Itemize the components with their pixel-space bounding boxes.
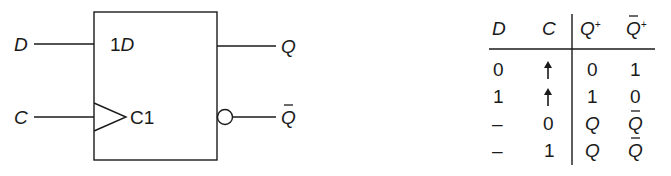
cell-qbar-next: 1 xyxy=(630,59,641,80)
table-row: – 1 Q Q xyxy=(492,138,643,161)
cell-qbar-next: Q xyxy=(628,113,643,134)
header-qbar-next: Q+ xyxy=(626,18,647,39)
cell-q-next: Q xyxy=(585,113,600,134)
negation-circle-icon xyxy=(218,110,233,125)
d-pin-main: D xyxy=(121,34,135,55)
header-q-next-main: Q xyxy=(580,18,595,39)
table-row: 0 0 1 xyxy=(493,59,641,80)
d-pin-label: 1D xyxy=(110,34,135,55)
cell-d: 0 xyxy=(493,59,504,80)
header-d: D xyxy=(492,18,506,39)
cell-q-next: Q xyxy=(585,140,600,161)
diagram-canvas: D C 1D C1 Q Q D C Q+ Q+ 0 0 1 xyxy=(0,0,671,176)
cell-d: – xyxy=(492,140,503,161)
flip-flop-symbol xyxy=(34,12,276,160)
rising-edge-arrow-icon xyxy=(544,61,552,79)
d-input-label: D xyxy=(14,34,28,55)
header-c: C xyxy=(542,18,556,39)
cell-q-next: 1 xyxy=(587,86,598,107)
table-row: 1 1 0 xyxy=(493,86,641,107)
cell-c: 1 xyxy=(544,140,555,161)
q-output-label: Q xyxy=(281,36,296,57)
cell-q-next: 0 xyxy=(587,59,598,80)
table-row: – 0 Q Q xyxy=(492,111,643,134)
rising-edge-arrow-icon xyxy=(544,88,552,106)
qbar-output-label: Q xyxy=(281,107,296,128)
header-q-next: Q+ xyxy=(580,18,601,39)
cell-qbar-next: 0 xyxy=(630,86,641,107)
cell-d: 1 xyxy=(493,86,504,107)
clock-triangle-icon xyxy=(94,103,126,131)
c1-pin-label: C1 xyxy=(130,107,154,128)
cell-d: – xyxy=(492,113,503,134)
header-qbar-next-sup: + xyxy=(641,19,647,30)
cell-qbar-next: Q xyxy=(628,140,643,161)
c-input-label: C xyxy=(14,107,28,128)
cell-c: 0 xyxy=(543,113,554,134)
header-q-next-sup: + xyxy=(595,19,601,30)
truth-table: D C Q+ Q+ 0 0 1 1 1 0 xyxy=(489,14,655,165)
header-qbar-next-main: Q xyxy=(626,18,641,39)
d-pin-prefix: 1 xyxy=(110,34,121,55)
